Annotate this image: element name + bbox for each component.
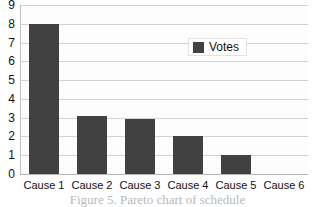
bar bbox=[125, 119, 155, 174]
bar-slot bbox=[68, 5, 116, 174]
bar bbox=[29, 24, 59, 174]
bar-slot bbox=[260, 5, 308, 174]
plot-area bbox=[20, 5, 308, 175]
y-axis-tick-label: 0 bbox=[8, 168, 15, 180]
x-axis-tick-label: Cause 4 bbox=[164, 178, 212, 193]
x-axis-tick-label: Cause 3 bbox=[116, 178, 164, 193]
chart-legend: Votes bbox=[188, 38, 247, 56]
x-axis-tick-label: Cause 2 bbox=[68, 178, 116, 193]
y-axis-tick-label: 9 bbox=[8, 0, 15, 11]
bar bbox=[221, 155, 251, 174]
y-axis-tick-label: 1 bbox=[8, 149, 15, 161]
figure-caption: Figure 5. Pareto chart of schedule bbox=[0, 194, 315, 207]
chart-plot-wrapper: 9876543210 Votes bbox=[0, 0, 315, 178]
y-axis-tick-label: 5 bbox=[8, 74, 15, 86]
bars-group bbox=[20, 5, 308, 174]
y-axis-tick-label: 6 bbox=[8, 55, 15, 67]
y-axis-tick-label: 8 bbox=[8, 18, 15, 30]
x-axis-tick-label: Cause 6 bbox=[260, 178, 308, 193]
bar bbox=[77, 116, 107, 174]
x-axis-line bbox=[20, 174, 308, 175]
y-axis-tick-label: 7 bbox=[8, 37, 15, 49]
y-axis: 9876543210 bbox=[0, 0, 18, 178]
x-axis-tick-label: Cause 1 bbox=[20, 178, 68, 193]
bar-slot bbox=[116, 5, 164, 174]
legend-swatch-votes-icon bbox=[193, 42, 204, 53]
x-axis-tick-label: Cause 5 bbox=[212, 178, 260, 193]
x-axis-category-labels: Cause 1Cause 2Cause 3Cause 4Cause 5Cause… bbox=[20, 178, 308, 193]
bar bbox=[173, 136, 203, 174]
y-axis-tick-label: 4 bbox=[8, 93, 15, 105]
bar-slot bbox=[212, 5, 260, 174]
legend-label-votes: Votes bbox=[209, 41, 239, 53]
pareto-bar-chart-figure: 9876543210 Votes Cause 1Cause 2Cause 3Ca… bbox=[0, 0, 315, 207]
figure-caption-text: Figure 5. Pareto chart of schedule bbox=[70, 194, 245, 207]
y-axis-tick-label: 2 bbox=[8, 130, 15, 142]
bar-slot bbox=[20, 5, 68, 174]
y-axis-tick-label: 3 bbox=[8, 112, 15, 124]
bar-slot bbox=[164, 5, 212, 174]
